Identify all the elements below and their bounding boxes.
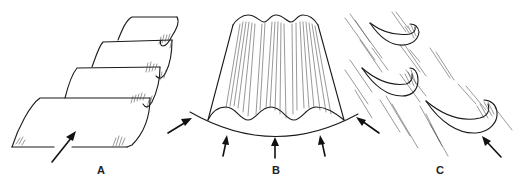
panel-c-drawing bbox=[345, 12, 512, 157]
figure-illustration bbox=[0, 0, 525, 185]
panel-label-b: B bbox=[272, 164, 280, 176]
panel-label-a: A bbox=[97, 164, 105, 176]
panel-a-drawing bbox=[12, 17, 178, 162]
panel-label-c: C bbox=[436, 164, 444, 176]
panel-b-drawing bbox=[168, 15, 379, 158]
